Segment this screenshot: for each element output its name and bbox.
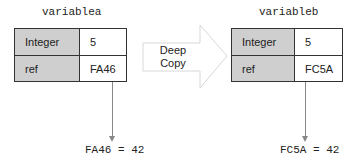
variableb-row-ref-value: FC5A bbox=[295, 56, 342, 81]
variablea-pointer-arrowhead-icon bbox=[109, 136, 115, 142]
variableb-table: Integer 5 ref FC5A bbox=[231, 28, 343, 82]
variableb-pointer-arrowhead-icon bbox=[302, 136, 308, 142]
variableb-row-ref-label: ref bbox=[232, 56, 295, 81]
variablea-target-value: FA46 = 42 bbox=[85, 144, 144, 156]
variablea-row-integer-label: Integer bbox=[15, 29, 80, 56]
variableb-target-value: FC5A = 42 bbox=[280, 144, 339, 156]
variablea-table: Integer 5 ref FA46 bbox=[14, 28, 127, 82]
variablea-title: variablea bbox=[42, 6, 101, 18]
deep-copy-label: Deep Copy bbox=[146, 44, 200, 70]
variableb-row-integer-label: Integer bbox=[232, 29, 295, 56]
variablea-row-ref-label: ref bbox=[15, 56, 80, 81]
variablea-row-ref-value: FA46 bbox=[80, 56, 126, 81]
variableb-pointer-line bbox=[305, 82, 306, 137]
variableb-row-integer-value: 5 bbox=[295, 29, 342, 56]
variableb-title: variableb bbox=[259, 6, 318, 18]
variablea-row-integer-value: 5 bbox=[80, 29, 126, 56]
deep-copy-label-line2: Copy bbox=[146, 57, 200, 70]
variablea-pointer-line bbox=[112, 82, 113, 137]
deep-copy-label-line1: Deep bbox=[146, 44, 200, 57]
